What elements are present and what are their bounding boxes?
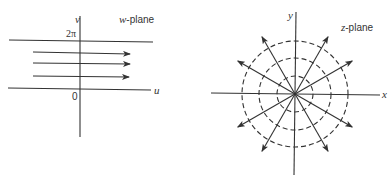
strip-arrow-2 — [33, 63, 130, 64]
radial-ray-4 — [238, 61, 295, 94]
radial-ray-5 — [238, 94, 295, 127]
z-plane — [211, 12, 380, 175]
z-plane-title: z-plane — [341, 22, 373, 33]
radial-ray-3 — [262, 37, 295, 94]
w-plane-title: w-plane — [119, 14, 154, 25]
radial-ray-2 — [295, 37, 328, 94]
radial-ray-1 — [295, 61, 352, 94]
y-axis-label: y — [288, 10, 293, 21]
x-axis-label: x — [382, 89, 387, 100]
top-line-label: 2π — [66, 29, 76, 39]
v-axis-label: v — [75, 14, 80, 25]
radial-ray-8 — [295, 94, 352, 127]
radial-ray-7 — [295, 94, 328, 151]
strip-arrow-3 — [33, 76, 129, 77]
radial-ray-6 — [262, 94, 295, 151]
diagram-canvas — [0, 0, 391, 179]
u-axis-label: u — [154, 85, 160, 96]
line-2pi — [9, 40, 153, 42]
z-plane-title-suffix: -plane — [345, 22, 373, 33]
w-plane — [8, 16, 153, 137]
strip-arrow-1 — [33, 52, 130, 54]
origin-label: 0 — [72, 92, 78, 102]
w-plane-title-suffix: -plane — [126, 14, 154, 25]
